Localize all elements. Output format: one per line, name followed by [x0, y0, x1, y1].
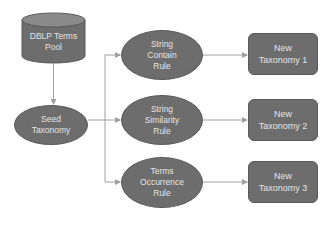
- node-new-taxonomy-2: New Taxonomy 2: [248, 99, 318, 141]
- node-string-contain-rule: String Contain Rule: [121, 30, 203, 80]
- node-string-similarity-rule: String Similarity Rule: [121, 95, 203, 145]
- node-dblp-terms-pool: DBLP Terms Pool: [22, 22, 85, 62]
- node-new-taxonomy-1: New Taxonomy 1: [248, 33, 318, 75]
- node-terms-occurrence-rule: Terms Occurrence Rule: [121, 157, 203, 208]
- node-new-taxonomy-3: New Taxonomy 3: [248, 161, 318, 203]
- node-seed-taxonomy: Seed Taxonomy: [14, 105, 88, 145]
